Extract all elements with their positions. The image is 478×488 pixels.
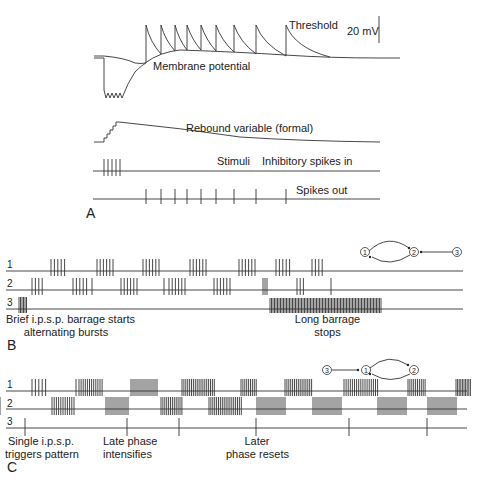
panel-b-letter: B bbox=[7, 337, 16, 353]
b-node-3-label: 3 bbox=[455, 249, 459, 256]
stimuli-spikes bbox=[104, 159, 120, 176]
c-trace-3-label: 3 bbox=[7, 415, 13, 428]
spikes-out-spikes bbox=[146, 189, 286, 204]
b-trace-1-spikes bbox=[51, 259, 322, 276]
b-annotation-right: Long barrage stops bbox=[285, 313, 370, 339]
c-annotation-single-ipsp: Single i.p.s.p. triggers pattern bbox=[5, 435, 77, 461]
b-trace-2-spikes bbox=[32, 278, 331, 295]
c-trace-2-spikes bbox=[0, 397, 456, 415]
b-trace-3-label: 3 bbox=[7, 296, 13, 309]
panel-c-letter: C bbox=[7, 459, 17, 475]
threshold-label: Threshold bbox=[289, 19, 338, 32]
inhibitory-spikes-label: Inhibitory spikes in bbox=[262, 155, 353, 168]
c-annotation-late-phase: Late phase intensifies bbox=[103, 435, 157, 461]
c-annotation-later-phase: Later phase resets bbox=[226, 435, 288, 461]
c-trace-1-spikes bbox=[32, 379, 470, 396]
b-trace-1-label: 1 bbox=[7, 258, 13, 271]
c-trace-3-spikes bbox=[25, 418, 427, 436]
spikes-out-label: Spikes out bbox=[296, 184, 347, 197]
c-trace-1-label: 1 bbox=[7, 378, 13, 391]
panel-a-letter: A bbox=[86, 205, 95, 221]
stimuli-label: Stimuli bbox=[217, 155, 250, 168]
b-node-2-label: 2 bbox=[412, 249, 416, 256]
c-node-3-label: 3 bbox=[325, 367, 329, 374]
scale-bar-label: 20 mV bbox=[347, 25, 379, 38]
rebound-variable-label: Rebound variable (formal) bbox=[186, 122, 313, 135]
c-network-diagram bbox=[332, 359, 410, 379]
b-node-1-label: 1 bbox=[363, 249, 367, 256]
figure-canvas: 1 2 3 3 1 2 bbox=[0, 0, 478, 488]
hyperpolarization-trace bbox=[94, 58, 146, 98]
b-annotation-left: Brief i.p.s.p. barrage starts alternatin… bbox=[6, 313, 126, 339]
b-trace-3-spikes bbox=[19, 297, 381, 313]
b-trace-2-label: 2 bbox=[7, 277, 13, 290]
membrane-potential-label: Membrane potential bbox=[153, 60, 250, 73]
c-node-2-label: 2 bbox=[412, 367, 416, 374]
c-node-1-label: 1 bbox=[364, 367, 368, 374]
c-trace-2-label: 2 bbox=[7, 397, 13, 410]
